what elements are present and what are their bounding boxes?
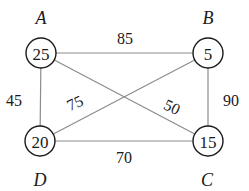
node-b-value: 5 [204, 45, 213, 64]
node-d-value: 20 [32, 133, 49, 152]
weight-a-b: 85 [117, 30, 133, 47]
node-a-label: A [35, 8, 48, 28]
node-a: 25 A [26, 8, 56, 68]
weight-a-c: 50 [161, 96, 183, 118]
node-c-label: C [201, 170, 214, 190]
node-d: 20 D [25, 126, 55, 190]
node-a-value: 25 [33, 45, 50, 64]
weight-d-c: 70 [116, 149, 132, 166]
graph-diagram: 85 45 90 70 75 50 25 A 5 B 15 C 20 D [0, 0, 249, 191]
node-b: 5 B [193, 8, 223, 68]
weight-a-d: 45 [6, 92, 22, 109]
node-b-label: B [203, 8, 214, 28]
node-c-value: 15 [200, 133, 217, 152]
weight-b-c: 90 [223, 92, 239, 109]
edges-layer [40, 53, 208, 141]
node-c: 15 C [193, 126, 223, 190]
weight-d-b: 75 [64, 92, 86, 114]
node-d-label: D [33, 170, 47, 190]
